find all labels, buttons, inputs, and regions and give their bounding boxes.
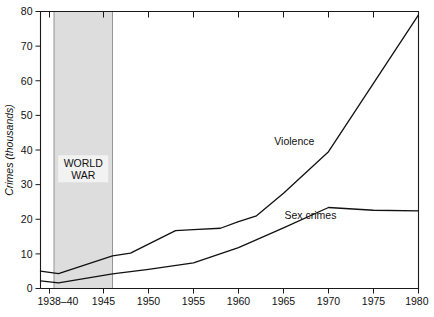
shaded-band-group: WORLD WAR bbox=[54, 12, 113, 289]
y-axis-ticks: 01020304050607080 bbox=[21, 5, 41, 294]
x-tick-label: 1945 bbox=[92, 295, 116, 307]
series-labels-group: ViolenceSex crimes bbox=[274, 135, 336, 221]
y-tick-label: 0 bbox=[27, 282, 33, 294]
y-tick-label: 50 bbox=[21, 109, 33, 121]
y-tick-label: 20 bbox=[21, 213, 33, 225]
x-tick-label: 1938–40 bbox=[38, 295, 79, 307]
x-tick-label: 1960 bbox=[227, 295, 251, 307]
y-tick-label: 40 bbox=[21, 144, 33, 156]
world-war-label-line-2: WAR bbox=[71, 169, 96, 181]
world-war-label-line-1: WORLD bbox=[64, 157, 104, 169]
y-tick-label: 80 bbox=[21, 5, 33, 17]
x-tick-label: 1970 bbox=[317, 295, 341, 307]
x-tick-label: 1975 bbox=[362, 295, 386, 307]
x-tick-label: 1965 bbox=[272, 295, 296, 307]
series-label-sex-crimes: Sex crimes bbox=[285, 209, 337, 221]
crime-statistics-chart: WORLD WAR 01020304050607080 1938–4019451… bbox=[0, 0, 434, 317]
y-tick-label: 70 bbox=[21, 40, 33, 52]
y-tick-label: 10 bbox=[21, 248, 33, 260]
x-tick-label: 1955 bbox=[182, 295, 206, 307]
series-label-violence: Violence bbox=[274, 135, 314, 147]
x-tick-label: 1950 bbox=[137, 295, 161, 307]
x-tick-label: 1980 bbox=[405, 295, 429, 307]
y-tick-label: 60 bbox=[21, 75, 33, 87]
y-tick-label: 30 bbox=[21, 178, 33, 190]
chart-canvas: WORLD WAR 01020304050607080 1938–4019451… bbox=[0, 0, 434, 317]
y-axis-title: Crimes (thousands) bbox=[3, 104, 15, 196]
world-war-band bbox=[54, 12, 113, 289]
